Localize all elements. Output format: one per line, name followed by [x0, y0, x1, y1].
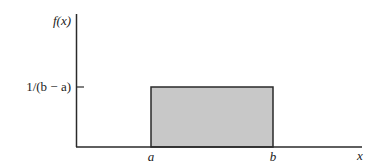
x-tick-label-b: b — [270, 149, 277, 164]
x-tick-label-a: a — [148, 149, 155, 164]
y-tick-label: 1/(b − a) — [26, 79, 71, 94]
y-axis-label: f(x) — [53, 13, 71, 28]
uniform-density-chart: f(x) 1/(b − a) a b x — [0, 0, 386, 167]
x-axis-label: x — [356, 148, 363, 163]
density-rectangle — [151, 87, 273, 147]
